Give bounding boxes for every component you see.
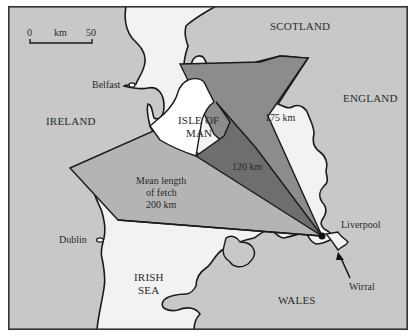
label-liverpool: Liverpool — [341, 219, 381, 230]
label-fetch-mean-3: 200 km — [146, 199, 177, 210]
scale-start-label: 0 — [27, 27, 32, 38]
label-fetch-120: 120 km — [232, 161, 263, 172]
label-belfast: Belfast — [92, 79, 121, 90]
label-scotland: SCOTLAND — [270, 20, 330, 32]
label-fetch-175: 175 km — [265, 112, 296, 123]
label-irish-sea-2: SEA — [138, 284, 159, 296]
fetch-map: 0 km 50 SCOTLAND ENGLAND IRELAND ISLE OF… — [8, 6, 408, 330]
liverpool-marker — [319, 233, 326, 240]
label-fetch-mean-1: Mean length — [136, 175, 186, 186]
label-isle-of-man-1: ISLE OF — [178, 114, 219, 126]
label-wales: WALES — [278, 294, 316, 306]
label-irish-sea-1: IRISH — [134, 271, 164, 283]
belfast-marker — [129, 83, 135, 87]
label-dublin: Dublin — [59, 234, 87, 245]
scale-end-label: 50 — [86, 27, 96, 38]
label-wirral: Wirral — [349, 281, 375, 292]
dublin-marker — [97, 238, 104, 242]
label-isle-of-man-2: MAN — [186, 127, 212, 139]
label-england: ENGLAND — [343, 92, 398, 104]
label-fetch-mean-2: of fetch — [146, 187, 177, 198]
label-ireland: IRELAND — [46, 115, 96, 127]
scale-unit-label: km — [54, 27, 67, 38]
